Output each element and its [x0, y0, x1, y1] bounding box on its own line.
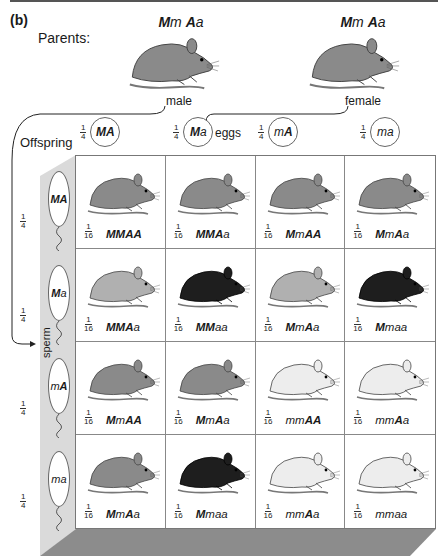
- mouse-icon: [82, 445, 162, 497]
- sperm-label: sperm: [40, 327, 52, 358]
- mouse-icon: [262, 445, 342, 497]
- mouse-icon: [172, 259, 252, 311]
- egg-circle: mA: [268, 117, 298, 147]
- offspring-mouse: [351, 352, 431, 404]
- sperm-oval: ma: [48, 451, 70, 507]
- punnett-cell: 116 MmAa: [166, 342, 256, 435]
- fraction: 116: [84, 503, 93, 520]
- mouse-icon: [262, 166, 342, 218]
- offspring-mouse: [82, 352, 162, 404]
- offspring-genotype: MMaa: [196, 321, 228, 333]
- sperm-arrowhead-icon: [30, 341, 36, 347]
- sperm-oval: mA: [48, 358, 70, 414]
- mouse-icon: [351, 445, 431, 497]
- offspring-genotype: MmAA: [286, 228, 322, 240]
- fraction: 116: [84, 316, 93, 333]
- offspring-genotype: Mmaa: [375, 321, 407, 333]
- offspring-mouse: [172, 166, 252, 218]
- offspring-genotype: Mmaa: [196, 508, 228, 520]
- sperm-fraction: 14: [20, 485, 26, 510]
- sperm-oval: MA: [48, 171, 70, 227]
- offspring-mouse: [262, 445, 342, 497]
- offspring-genotype: MMAa: [106, 321, 140, 333]
- mouse-icon: [82, 166, 162, 218]
- fraction: 116: [353, 223, 362, 240]
- fraction: 116: [353, 316, 362, 333]
- punnett-cell: 116 MMAa: [166, 156, 256, 249]
- punnett-square-grid: 116 MMAA 116 MMAa 116 MmAA 116 MmAa: [75, 155, 436, 529]
- punnett-cell: 116 Mmaa: [345, 249, 435, 342]
- fraction: 14: [80, 124, 86, 141]
- fraction: 14: [360, 124, 366, 141]
- egg-circle: Ma: [183, 117, 213, 147]
- punnett-cell: 116 MMAA: [76, 156, 166, 249]
- offspring-mouse: [82, 445, 162, 497]
- mouse-icon: [172, 166, 252, 218]
- mouse-icon: [262, 259, 342, 311]
- offspring-mouse: [262, 352, 342, 404]
- offspring-mouse: [172, 352, 252, 404]
- sperm-oval: Ma: [48, 265, 70, 321]
- fraction: 116: [84, 409, 93, 426]
- offspring-mouse: [351, 166, 431, 218]
- fraction: 14: [20, 307, 26, 324]
- egg-gamete: 14ma: [360, 117, 400, 147]
- punnett-cell: 116 MMAa: [76, 249, 166, 342]
- fraction: 116: [264, 409, 273, 426]
- sperm-fraction: 14: [20, 392, 26, 417]
- offspring-genotype: mmAA: [286, 414, 322, 426]
- fraction: 116: [174, 223, 183, 240]
- offspring-genotype: mmAa: [375, 414, 409, 426]
- sperm-fraction: 14: [20, 299, 26, 324]
- fraction: 14: [20, 493, 26, 510]
- sperm-fraction: 14: [20, 205, 26, 230]
- punnett-cell: 116 mmAa: [256, 435, 346, 528]
- fraction: 116: [174, 503, 183, 520]
- sperm-tail-icon: [48, 414, 70, 438]
- sperm-tail-icon: [48, 507, 70, 531]
- fraction: 116: [264, 316, 273, 333]
- offspring-mouse: [82, 166, 162, 218]
- offspring-mouse: [172, 445, 252, 497]
- fraction: 116: [353, 503, 362, 520]
- offspring-genotype: mmaa: [375, 508, 407, 520]
- offspring-genotype: MmAa: [196, 414, 230, 426]
- offspring-mouse: [172, 259, 252, 311]
- punnett-cell: 116 Mmaa: [166, 435, 256, 528]
- offspring-genotype: MmAa: [375, 228, 409, 240]
- egg-gamete: 14mA: [258, 117, 298, 147]
- sperm-gamete: MA: [48, 171, 70, 255]
- sperm-gamete: ma: [48, 451, 70, 535]
- fraction: 116: [84, 223, 93, 240]
- fraction: 116: [264, 503, 273, 520]
- punnett-cell: 116 MmAA: [256, 156, 346, 249]
- punnett-cell: 116 MmAa: [345, 156, 435, 249]
- punnett-cell: 116 mmAa: [345, 342, 435, 435]
- fraction: 14: [20, 400, 26, 417]
- mouse-icon: [351, 166, 431, 218]
- offspring-genotype: MmAa: [286, 321, 320, 333]
- fraction: 14: [20, 213, 26, 230]
- fraction: 116: [264, 223, 273, 240]
- mouse-icon: [351, 259, 431, 311]
- punnett-cell: 116 mmAA: [256, 342, 346, 435]
- offspring-genotype: MMAa: [196, 228, 230, 240]
- egg-gamete: 14Ma: [173, 117, 213, 147]
- mouse-icon: [82, 259, 162, 311]
- punnett-cell: 116 MmAa: [256, 249, 346, 342]
- eggs-label: eggs: [215, 126, 241, 140]
- sperm-tail-icon: [48, 227, 70, 251]
- mouse-icon: [172, 445, 252, 497]
- mouse-icon: [351, 352, 431, 404]
- fraction: 116: [174, 316, 183, 333]
- egg-gamete: 14MA: [80, 117, 120, 147]
- offspring-genotype: MmAA: [106, 414, 142, 426]
- offspring-mouse: [262, 166, 342, 218]
- punnett-cell: 116 MmAA: [76, 342, 166, 435]
- egg-circle: ma: [370, 117, 400, 147]
- offspring-mouse: [82, 259, 162, 311]
- fraction: 116: [353, 409, 362, 426]
- grid-floor-shadow: [40, 529, 440, 556]
- offspring-genotype: MmAa: [106, 508, 140, 520]
- punnett-cell: 116 MmAa: [76, 435, 166, 528]
